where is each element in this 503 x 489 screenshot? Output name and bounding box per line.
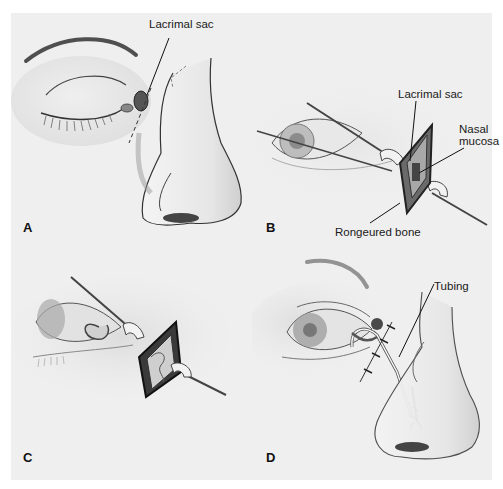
panel-letter-d: D	[266, 450, 275, 465]
panel-a-illustration	[11, 13, 251, 246]
panel-c: C	[11, 247, 251, 480]
callout-lacrimal-sac: Lacrimal sac	[149, 18, 214, 30]
lacrimal-sac	[134, 91, 148, 111]
panel-letter-b: B	[266, 220, 275, 235]
callout-nasal-mucosa-line1: Nasal	[459, 123, 499, 135]
panel-d: Tubing D	[252, 247, 492, 480]
iris	[37, 299, 65, 339]
callout-leader-rongeured-bone	[370, 203, 400, 223]
panel-b: Lacrimal sac Nasal mucosa Rongeured bone…	[252, 13, 492, 246]
panel-c-illustration	[11, 247, 251, 480]
nostril	[163, 213, 199, 223]
retractor-lower	[427, 181, 487, 225]
panel-letter-c: C	[23, 450, 32, 465]
callout-nasal-mucosa-line2: mucosa	[459, 135, 499, 147]
nose	[142, 58, 241, 225]
callout-tubing: Tubing	[434, 280, 469, 292]
panel-letter-a: A	[23, 220, 32, 235]
nostril	[395, 442, 429, 452]
lacrimal-sac	[371, 318, 383, 330]
callout-nasal-mucosa: Nasal mucosa	[459, 123, 499, 147]
panel-b-illustration	[252, 13, 492, 246]
callout-rongeured-bone: Rongeured bone	[335, 226, 421, 238]
callout-lacrimal-sac: Lacrimal sac	[398, 88, 463, 100]
panel-a: Lacrimal sac A	[11, 13, 251, 246]
callout-leader-lacrimal-sac	[147, 38, 169, 95]
